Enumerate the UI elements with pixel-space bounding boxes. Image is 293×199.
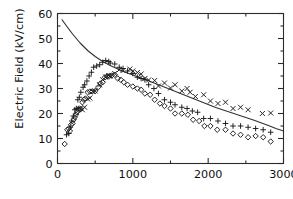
y-tick-label: 30	[38, 83, 52, 96]
marker-diamond	[268, 139, 273, 144]
marker-plus	[172, 102, 178, 108]
marker-x	[162, 81, 167, 86]
marker-x	[188, 90, 193, 95]
y-tick-label: 0	[45, 158, 52, 171]
marker-diamond	[190, 117, 195, 122]
marker-diamond	[230, 131, 235, 136]
marker-plus	[91, 64, 97, 70]
marker-diamond	[62, 141, 67, 146]
x-tick-label: 2000	[194, 168, 222, 181]
marker-x	[152, 78, 157, 83]
marker-x	[185, 86, 190, 91]
y-tick-label: 50	[38, 33, 52, 46]
marker-plus	[215, 118, 221, 124]
marker-x	[215, 101, 220, 106]
marker-x	[260, 111, 265, 116]
marker-plus	[78, 89, 84, 95]
marker-x	[231, 106, 236, 111]
marker-plus	[268, 129, 274, 135]
x-tick-label: 0	[54, 168, 61, 181]
marker-plus	[208, 116, 214, 122]
marker-x	[246, 107, 251, 112]
x-tick-label: 1000	[119, 168, 147, 181]
marker-plus	[253, 126, 259, 132]
y-tick-label: 60	[38, 8, 52, 21]
marker-x	[82, 105, 87, 110]
marker-diamond	[253, 133, 258, 138]
marker-x	[268, 111, 273, 116]
marker-plus	[168, 99, 174, 105]
marker-x	[193, 94, 198, 99]
marker-diamond	[168, 106, 173, 111]
marker-diamond	[238, 132, 243, 137]
y-tick-label: 40	[38, 58, 52, 71]
marker-plus	[97, 62, 103, 68]
marker-plus	[162, 97, 168, 103]
marker-plus	[245, 124, 251, 130]
marker-plus	[195, 109, 201, 115]
marker-diamond	[179, 111, 184, 116]
marker-x	[179, 89, 184, 94]
marker-plus	[230, 123, 236, 129]
marker-diamond	[215, 127, 220, 132]
marker-diamond	[196, 118, 201, 123]
y-tick-label: 10	[38, 133, 52, 146]
marker-x	[173, 82, 178, 87]
scatter-plot: 01000200030000102030405060	[0, 0, 293, 199]
marker-x	[201, 92, 206, 97]
marker-x	[238, 105, 243, 110]
x-tick-label: 3000	[269, 168, 293, 181]
marker-plus	[94, 63, 100, 69]
marker-diamond	[202, 123, 207, 128]
marker-diamond	[172, 111, 177, 116]
series-diamond	[62, 72, 273, 147]
marker-plus	[151, 86, 157, 92]
marker-plus	[112, 61, 118, 67]
marker-plus	[156, 91, 162, 97]
marker-plus	[146, 82, 152, 88]
marker-diamond	[223, 127, 228, 132]
marker-plus	[238, 123, 244, 129]
marker-diamond	[185, 112, 190, 117]
marker-diamond	[142, 91, 147, 96]
marker-plus	[179, 104, 185, 110]
marker-diamond	[147, 92, 152, 97]
series-+	[64, 58, 274, 138]
y-tick-label: 20	[38, 108, 52, 121]
marker-plus	[190, 108, 196, 114]
chart-figure: Electric Field (kV/cm) 01000200030000102…	[0, 0, 293, 199]
marker-diamond	[260, 135, 265, 140]
marker-x	[223, 100, 228, 105]
marker-x	[208, 99, 213, 104]
marker-diamond	[152, 97, 157, 102]
marker-diamond	[245, 135, 250, 140]
marker-plus	[260, 127, 266, 133]
marker-plus	[184, 106, 190, 112]
marker-plus	[223, 121, 229, 127]
marker-diamond	[208, 123, 213, 128]
